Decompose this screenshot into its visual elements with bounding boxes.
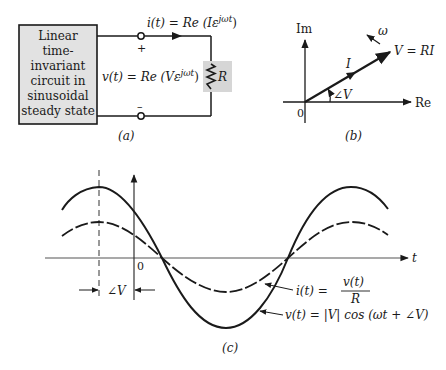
box-line-1: Linear: [38, 29, 78, 43]
current-expression: i(t) = Re (Iεjωt): [147, 14, 237, 30]
terminal-positive: [138, 33, 144, 39]
panel-b-phasor: Im Re 0 I V = RI ω ∠V (b): [283, 22, 434, 143]
current-arrow-icon: [172, 32, 182, 40]
figure-canvas: Linear time- invariant circuit in sinuso…: [0, 0, 446, 370]
minus-sign: –: [137, 100, 143, 113]
phasor-i-label: I: [345, 57, 351, 71]
im-axis-label: Im: [296, 22, 313, 36]
angle-arc: [328, 89, 330, 102]
current-label: i(t) =: [296, 284, 328, 298]
box-line-4: circuit in: [31, 74, 86, 88]
origin-label-c: 0: [137, 260, 144, 273]
voltage-leader: [260, 311, 283, 315]
phase-marker-label: ∠V: [107, 284, 127, 298]
plus-sign: +: [137, 42, 146, 55]
box-line-2: time-: [42, 44, 73, 58]
omega-label: ω: [378, 24, 388, 38]
caption-a: (a): [118, 129, 135, 143]
panel-c-waveforms: t 0 ∠V i(t) = v(t) R v(t) = |V| cos (ωt …: [45, 170, 429, 355]
phasor-v-label: V = RI: [394, 44, 434, 58]
box-line-5: sinusoidal: [27, 89, 89, 103]
angle-label-b: ∠V: [333, 88, 353, 102]
current-fraction-den: R: [350, 292, 360, 306]
voltage-expression: v(t) = Re (Vεjωt): [102, 68, 199, 84]
voltage-label: v(t) = |V| cos (ωt + ∠V): [285, 308, 429, 322]
box-line-3: invariant: [31, 59, 86, 73]
box-line-6: steady state: [21, 104, 95, 118]
current-curve: [62, 222, 388, 292]
resistor-label: R: [217, 70, 227, 84]
current-fraction-num: v(t): [343, 275, 364, 289]
origin-label-b: 0: [297, 107, 304, 120]
terminal-negative: [138, 113, 144, 119]
caption-c: (c): [222, 341, 238, 355]
t-axis-label: t: [412, 251, 417, 265]
current-leader: [265, 284, 293, 290]
panel-a-circuit: Linear time- invariant circuit in sinuso…: [19, 14, 237, 143]
re-axis-label: Re: [415, 96, 431, 110]
caption-b: (b): [345, 129, 362, 143]
